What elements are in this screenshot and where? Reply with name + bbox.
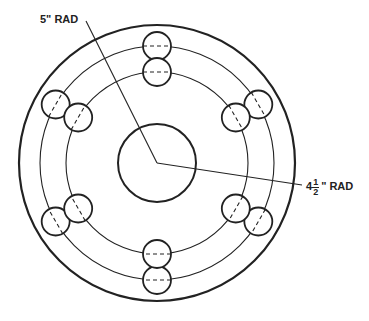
inner-radius-fraction: 12 <box>312 178 319 197</box>
inner-radius-label: 412" RAD <box>306 178 353 197</box>
outer-radius-label: 5" RAD <box>40 13 78 25</box>
inner-radius-leader <box>157 163 302 185</box>
inner-radius-unit: " RAD <box>321 180 353 192</box>
flange-drawing <box>0 0 369 321</box>
